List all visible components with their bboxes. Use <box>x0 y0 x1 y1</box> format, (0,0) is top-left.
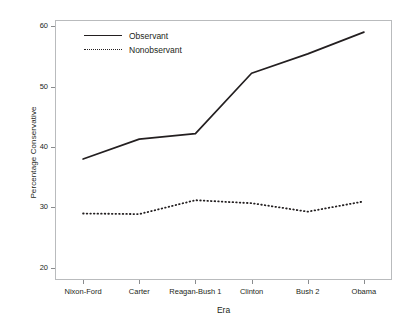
x-tick-mark <box>139 280 140 284</box>
x-tick-label: Nixon-Ford <box>65 287 102 296</box>
x-tick-label: Obama <box>352 287 377 296</box>
dotted-line-swatch-icon <box>84 45 122 55</box>
x-tick: Clinton <box>252 280 253 300</box>
x-tick-label: Clinton <box>240 287 263 296</box>
y-tick: 60 <box>0 26 55 27</box>
x-tick-mark <box>83 280 84 284</box>
x-tick-mark <box>252 280 253 284</box>
x-tick-label: Reagan-Bush 1 <box>169 287 221 296</box>
y-tick-mark <box>51 268 55 269</box>
legend-label-observant: Observant <box>129 31 168 41</box>
y-tick-mark <box>51 87 55 88</box>
legend: Observant Nonobservant <box>84 30 182 55</box>
y-tick-label: 40 <box>40 142 48 151</box>
x-tick: Reagan-Bush 1 <box>195 280 196 300</box>
x-tick-mark <box>308 280 309 284</box>
x-tick-label: Carter <box>129 287 150 296</box>
y-tick-mark <box>51 26 55 27</box>
x-tick-mark <box>364 280 365 284</box>
x-tick: Obama <box>364 280 365 300</box>
x-tick-mark <box>195 280 196 284</box>
line-chart: Percentage Conservative 2030405060 Nixon… <box>0 0 411 324</box>
plot-area <box>55 20 392 280</box>
y-tick: 50 <box>0 87 55 88</box>
y-tick-label: 30 <box>40 202 48 211</box>
legend-item-observant: Observant <box>84 30 182 41</box>
legend-label-nonobservant: Nonobservant <box>129 45 182 55</box>
x-tick: Nixon-Ford <box>83 280 84 300</box>
x-tick-label: Bush 2 <box>296 287 319 296</box>
y-tick-label: 60 <box>40 21 48 30</box>
x-axis-title: Era <box>55 305 392 315</box>
y-tick: 20 <box>0 268 55 269</box>
y-tick: 30 <box>0 207 55 208</box>
y-tick-mark <box>51 147 55 148</box>
solid-line-swatch-icon <box>84 31 122 41</box>
y-tick: 40 <box>0 147 55 148</box>
legend-item-nonobservant: Nonobservant <box>84 44 182 55</box>
y-tick-label: 50 <box>40 82 48 91</box>
x-tick: Carter <box>139 280 140 300</box>
x-tick: Bush 2 <box>308 280 309 300</box>
y-tick-mark <box>51 207 55 208</box>
y-tick-label: 20 <box>40 263 48 272</box>
